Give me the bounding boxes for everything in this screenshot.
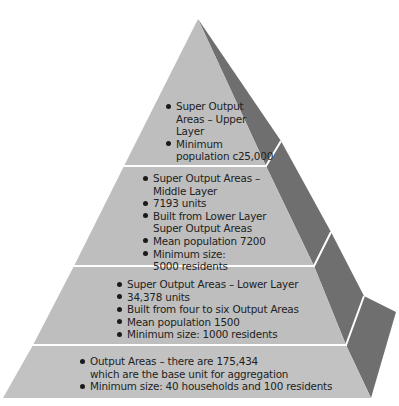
bullet: 7193 units <box>142 197 266 210</box>
bullet: Minimum size: 1000 residents <box>116 328 299 341</box>
bullet: 34,378 units <box>116 291 299 304</box>
bullet: Minimum size: 40 households and 100 resi… <box>79 380 332 393</box>
bullet: Super Output Areas – Upper Layer <box>165 100 273 138</box>
bullet: Built from four to six Output Areas <box>116 303 299 316</box>
level-4-text: Output Areas – there are 175,434 which a… <box>79 355 332 393</box>
bullet: Minimum population c25,000 <box>165 138 273 163</box>
level-2-text: Super Output Areas – Middle Layer 7193 u… <box>142 172 266 273</box>
bullet: Minimum size: 5000 residents <box>142 248 266 273</box>
bullet: Output Areas – there are 175,434 which a… <box>79 355 332 380</box>
bullet: Super Output Areas – Middle Layer <box>142 172 266 197</box>
bullet: Mean population 7200 <box>142 235 266 248</box>
level-3-text: Super Output Areas – Lower Layer 34,378 … <box>116 278 299 341</box>
bullet: Mean population 1500 <box>116 316 299 329</box>
level-1-text: Super Output Areas – Upper Layer Minimum… <box>165 100 273 163</box>
bullet: Super Output Areas – Lower Layer <box>116 278 299 291</box>
bullet: Built from Lower Layer Super Output Area… <box>142 210 266 235</box>
